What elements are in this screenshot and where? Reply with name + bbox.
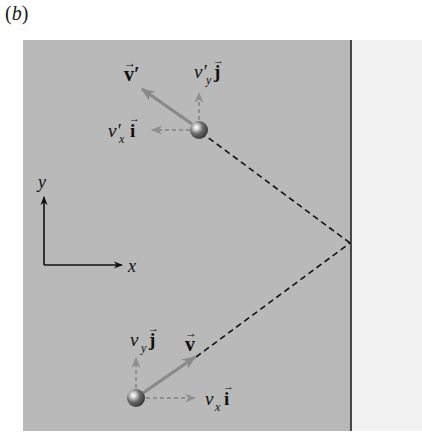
y-axis-label: y [36, 172, 46, 192]
vx-before-subscript: x [214, 400, 221, 414]
wall [351, 40, 422, 431]
vx-before-symbol: v [205, 388, 214, 409]
ball-after-bounce [190, 121, 208, 139]
field-background [23, 40, 351, 431]
vector-arrow-icon: → [124, 56, 136, 70]
ball-before-bounce [127, 389, 145, 407]
vector-arrow-icon: → [148, 322, 159, 334]
vy-after-subscript: y [205, 73, 212, 87]
vector-arrow-icon: → [185, 326, 197, 340]
vx-after-subscript: x [118, 132, 125, 146]
vector-arrow-icon: → [129, 112, 140, 124]
vector-arrow-icon: → [213, 54, 224, 66]
vy-before-symbol: v [130, 329, 139, 350]
bounce-diagram: x y v′ → v′ y j → v′ x i → [0, 0, 422, 443]
vy-before-subscript: y [140, 341, 147, 355]
x-axis-label: x [127, 256, 136, 276]
vector-arrow-icon: → [223, 380, 234, 392]
